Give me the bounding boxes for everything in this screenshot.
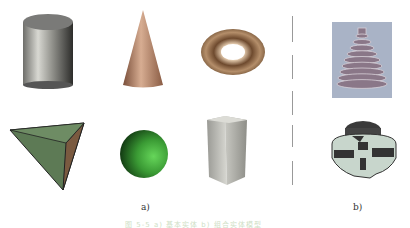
- panel-b-label: b): [353, 202, 362, 212]
- cutaway-coupling-model: [330, 118, 400, 180]
- stepped-cone-model: [332, 22, 392, 98]
- tetrahedron-shape: [8, 120, 86, 192]
- cone-shape: [118, 8, 168, 90]
- figure-caption: 图 5-5 a) 基本实体 b) 组合实体模型: [125, 219, 262, 228]
- sphere-shape: [118, 128, 170, 180]
- rectangular-prism-shape: [205, 113, 250, 191]
- torus-shape: [198, 25, 268, 80]
- cylinder-shape: [18, 10, 78, 90]
- panel-a-label: a): [141, 202, 150, 212]
